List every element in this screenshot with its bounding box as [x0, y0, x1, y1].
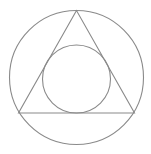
inscribed-circle [43, 45, 111, 113]
circumscribed-circle [10, 11, 144, 145]
diagram-svg [0, 0, 151, 154]
geometry-diagram [0, 0, 151, 154]
equilateral-triangle [19, 11, 135, 114]
